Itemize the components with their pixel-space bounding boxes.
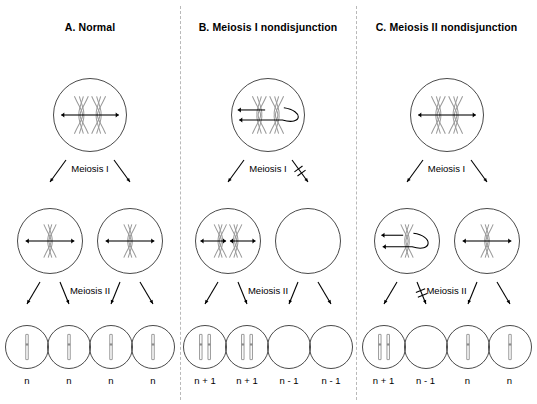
panel-b-gamete-2 <box>225 325 269 369</box>
panel-c-ploidy-label-3: n <box>445 375 491 386</box>
panel-c-meiosis-ii-arrow-1 <box>372 278 409 312</box>
panel-a-gamete-4 <box>131 325 175 369</box>
panel-c-meiosis-ii-label: Meiosis II <box>415 285 479 296</box>
panel-b-gamete-4 <box>309 325 353 369</box>
panel-c-gamete-2 <box>404 325 448 369</box>
panel-b-ploidy-label-1: n + 1 <box>182 375 228 386</box>
panel-c-gamete-4 <box>488 325 532 369</box>
panel-b-parent-cell <box>231 78 305 152</box>
panel-a-meiosis-ii-label: Meiosis II <box>58 285 122 296</box>
panel-a-ploidy-label-1: n <box>4 375 50 386</box>
panel-c-ploidy-label-1: n + 1 <box>361 375 407 386</box>
panel-a-ploidy-label-2: n <box>46 375 92 386</box>
panel-a-meiosis-ii-arrow-1 <box>15 278 52 312</box>
panel-a-title: A. Normal <box>0 21 180 33</box>
panel-b-meiosis-ii-arrow-4 <box>306 278 343 312</box>
panel-a-ploidy-label-3: n <box>88 375 134 386</box>
panel-b-ploidy-label-3: n - 1 <box>266 375 312 386</box>
panel-c-title: C. Meiosis II nondisjunction <box>356 21 537 33</box>
panel-c-daughter-cell-1 <box>374 208 440 274</box>
panel-a-daughter-cell-2 <box>97 208 163 274</box>
panel-a-ploidy-label-4: n <box>130 375 176 386</box>
panel-a-parent-cell <box>53 78 127 152</box>
panel-b-gamete-3 <box>267 325 311 369</box>
panel-b-title: B. Meiosis I nondisjunction <box>180 21 356 33</box>
panel-b-meiosis-i-label: Meiosis I <box>238 163 298 174</box>
panel-c-meiosis-ii-arrow-4 <box>485 278 522 312</box>
meiosis-nondisjunction-figure: A. Normal B. Meiosis I nondisjunction C.… <box>0 0 537 404</box>
panel-b-gamete-1 <box>183 325 227 369</box>
panel-b-daughter-cell-1 <box>195 208 261 274</box>
panel-b-ploidy-label-2: n + 1 <box>224 375 270 386</box>
panel-a-meiosis-ii-arrow-4 <box>128 278 165 312</box>
panel-c-parent-cell <box>410 78 484 152</box>
panel-c-gamete-1 <box>362 325 406 369</box>
panel-b-ploidy-label-4: n - 1 <box>308 375 354 386</box>
panel-c-ploidy-label-4: n <box>487 375 533 386</box>
panel-c-daughter-cell-2 <box>454 208 520 274</box>
panel-b-daughter-cell-2 <box>275 208 341 274</box>
panel-a-gamete-3 <box>89 325 133 369</box>
panel-a-gamete-2 <box>47 325 91 369</box>
panel-a-meiosis-i-label: Meiosis I <box>60 163 120 174</box>
panel-b-meiosis-ii-label: Meiosis II <box>236 285 300 296</box>
panel-c-ploidy-label-2: n - 1 <box>403 375 449 386</box>
panel-b-meiosis-ii-arrow-1 <box>193 278 230 312</box>
panel-c-gamete-3 <box>446 325 490 369</box>
panel-a-daughter-cell-1 <box>17 208 83 274</box>
panel-c-meiosis-i-label: Meiosis I <box>417 163 477 174</box>
panel-a-gamete-1 <box>5 325 49 369</box>
